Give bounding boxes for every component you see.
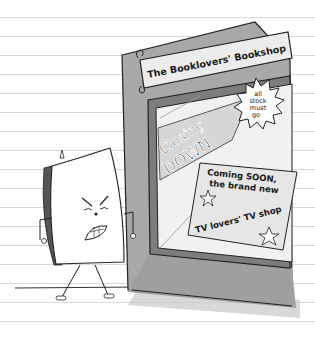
svg-text:go: go bbox=[252, 111, 260, 119]
floor-line bbox=[15, 287, 140, 288]
coming-soon-poster: Coming SOON, the brand new TV lovers' TV… bbox=[188, 163, 297, 250]
angry-book-character bbox=[40, 148, 136, 300]
illustration: The Booklovers' Bookshop Closing DOWN al… bbox=[0, 0, 315, 337]
